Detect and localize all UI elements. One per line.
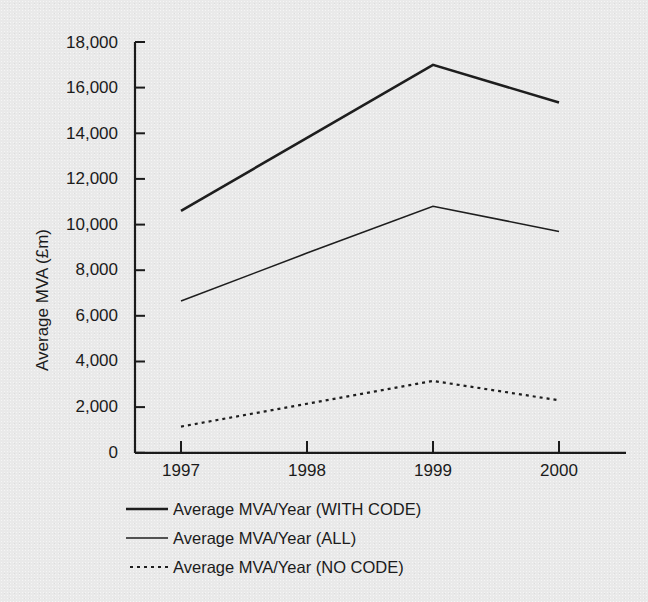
y-tick-label-14000: 14,000 [66, 124, 118, 143]
y-tick-label-8000: 8,000 [75, 260, 118, 279]
legend-entry-no-code[interactable]: Average MVA/Year (NO CODE) [130, 558, 404, 576]
x-tick-label-1997: 1997 [162, 461, 200, 480]
y-tick-label-16000: 16,000 [66, 78, 118, 97]
series-line-with-code [181, 65, 559, 211]
legend-label-with-code: Average MVA/Year (WITH CODE) [173, 500, 421, 518]
legend-entry-all[interactable]: Average MVA/Year (ALL) [126, 529, 356, 547]
y-tick-label-18000: 18,000 [66, 33, 118, 52]
x-tick-label-2000: 2000 [540, 461, 578, 480]
y-tick-label-6000: 6,000 [75, 306, 118, 325]
series-line-no-code [181, 381, 559, 427]
chart-canvas: Average MVA (£m) 18,000 16,000 14,000 12… [0, 0, 648, 602]
y-tick-label-10000: 10,000 [66, 215, 118, 234]
line-chart-figure: Average MVA (£m) 18,000 16,000 14,000 12… [0, 0, 648, 602]
legend: Average MVA/Year (WITH CODE) Average MVA… [126, 500, 421, 576]
series-line-all [181, 206, 559, 301]
legend-label-all: Average MVA/Year (ALL) [173, 529, 356, 547]
y-tick-label-0: 0 [109, 443, 118, 462]
y-tick-label-12000: 12,000 [66, 169, 118, 188]
y-axis-title: Average MVA (£m) [33, 229, 52, 371]
x-tick-label-1998: 1998 [288, 461, 326, 480]
legend-label-no-code: Average MVA/Year (NO CODE) [173, 558, 404, 576]
legend-entry-with-code[interactable]: Average MVA/Year (WITH CODE) [126, 500, 421, 518]
x-tick-label-1999: 1999 [414, 461, 452, 480]
y-tick-label-2000: 2,000 [75, 397, 118, 416]
y-tick-label-4000: 4,000 [75, 351, 118, 370]
